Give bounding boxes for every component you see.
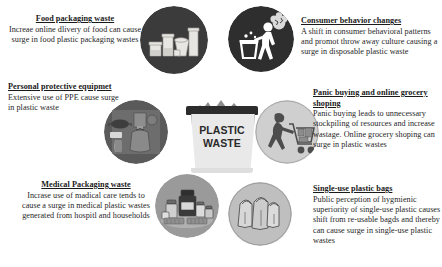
plastic-food-containers-icon	[140, 6, 208, 74]
node-body-food-packaging-waste: Increae online dlivery of food can cause…	[8, 25, 142, 46]
bin-lid	[186, 106, 258, 115]
plastic-waste-diagram: Food packaging waste Increae online dliv…	[0, 0, 442, 267]
node-text-food-packaging-waste: Food packaging waste Increae online dliv…	[8, 14, 142, 45]
shopping-cart-person-icon	[255, 100, 319, 164]
medicine-bottles-icon	[155, 174, 219, 238]
node-body-personal-protective-equipment: Extensive use of PPE cause surge in plas…	[8, 93, 124, 114]
plastic-shopping-bags-icon	[228, 182, 292, 246]
node-text-single-use-plastic-bags: Single-use plastic bags Public perceptio…	[313, 184, 441, 247]
node-body-medical-packaging-waste: Incrase use of madical care tends to cau…	[22, 191, 150, 222]
node-text-consumer-behavior-changes: Consumer behavior changes A shift in con…	[301, 16, 439, 58]
node-title-personal-protective-equipment: Personal protective equipmet	[8, 82, 124, 93]
node-title-panic-buying-online-grocery-shopping: Panic buying and online grocery shoping	[313, 88, 439, 109]
bin-label-line1: PLASTIC	[191, 124, 253, 137]
node-title-food-packaging-waste: Food packaging waste	[8, 14, 142, 25]
node-icon-person-throwing-trash	[228, 6, 294, 72]
node-icon-plastic-shopping-bags	[228, 182, 292, 246]
node-icon-medicine-bottles	[155, 174, 219, 238]
node-body-single-use-plastic-bags: Public perception of hygmienic superiori…	[313, 195, 441, 247]
center-plastic-waste-bin: PLASTIC WASTE	[186, 96, 258, 174]
node-title-medical-packaging-waste: Medical Packaging waste	[22, 180, 150, 191]
person-throwing-trash-icon	[228, 6, 294, 72]
node-icon-shopping-cart-person	[255, 100, 319, 164]
bin-base	[191, 168, 253, 173]
node-icon-plastic-food-containers	[140, 6, 208, 74]
ppe-kit-icon	[104, 100, 168, 164]
node-icon-ppe-kit	[104, 100, 168, 164]
bin-label-line2: WASTE	[191, 137, 253, 150]
node-title-consumer-behavior-changes: Consumer behavior changes	[301, 16, 439, 27]
node-body-panic-buying-online-grocery-shopping: Panic buying leads to unnecessary stockp…	[313, 109, 439, 151]
node-body-consumer-behavior-changes: A shift in consumer behavioral patterns …	[301, 27, 439, 58]
bin-label: PLASTIC WASTE	[191, 124, 253, 149]
node-title-single-use-plastic-bags: Single-use plastic bags	[313, 184, 441, 195]
node-text-panic-buying-online-grocery-shopping: Panic buying and online grocery shoping …	[313, 88, 439, 151]
node-text-medical-packaging-waste: Medical Packaging waste Incrase use of m…	[22, 180, 150, 222]
node-text-personal-protective-equipment: Personal protective equipmet Extensive u…	[8, 82, 124, 113]
